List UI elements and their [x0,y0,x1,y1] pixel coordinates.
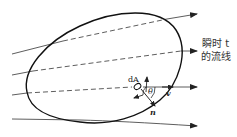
tangent-arrow [146,77,147,92]
streamline-1 [12,14,197,54]
flow-diagram: dA θ v n 瞬时 t 的流线 [0,0,237,137]
streamline-caption-line1: 瞬时 t [202,37,229,49]
streamline-caption-line2: 的流线 [201,50,231,62]
normal-label: n [150,107,156,117]
control-surface [26,13,182,123]
angle-label: θ [148,87,153,96]
area-element-label: dA [128,75,139,84]
velocity-label: v [166,88,171,98]
lower-tangent-arrow [134,95,143,98]
